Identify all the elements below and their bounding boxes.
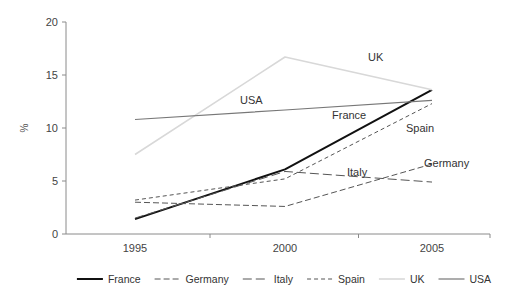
legend-label-spain: Spain bbox=[338, 273, 365, 285]
chart-series-annotations: UKUSAFranceSpainGermanyItaly bbox=[240, 51, 470, 178]
y-tick-label: 5 bbox=[52, 175, 58, 187]
legend-label-italy: Italy bbox=[274, 273, 294, 285]
series-annotation-france: France bbox=[332, 109, 366, 121]
chart-legend: FranceGermanyItalySpainUKUSA bbox=[77, 273, 491, 285]
y-tick-label: 15 bbox=[46, 69, 58, 81]
chart-series-lines bbox=[135, 57, 432, 219]
legend-label-uk: UK bbox=[410, 273, 425, 285]
y-tick-label: 10 bbox=[46, 122, 58, 134]
legend-label-france: France bbox=[108, 273, 141, 285]
line-chart: 05101520 199520002005 UKUSAFranceSpainGe… bbox=[0, 0, 523, 302]
series-annotation-spain: Spain bbox=[406, 122, 434, 134]
series-annotation-usa: USA bbox=[240, 94, 263, 106]
series-line-usa bbox=[135, 100, 432, 119]
y-axis-title: % bbox=[19, 123, 30, 132]
series-annotation-germany: Germany bbox=[424, 157, 470, 169]
series-annotation-uk: UK bbox=[368, 51, 384, 63]
x-tick-label: 2000 bbox=[273, 242, 297, 254]
chart-canvas: 05101520 199520002005 UKUSAFranceSpainGe… bbox=[0, 0, 523, 302]
y-tick-label: 0 bbox=[52, 228, 58, 240]
x-tick-label: 2005 bbox=[420, 242, 444, 254]
legend-label-usa: USA bbox=[470, 273, 492, 285]
series-annotation-italy: Italy bbox=[347, 166, 368, 178]
x-axis-ticks: 199520002005 bbox=[123, 234, 490, 254]
y-tick-label: 20 bbox=[46, 16, 58, 28]
series-line-spain bbox=[135, 104, 432, 200]
x-tick-label: 1995 bbox=[123, 242, 147, 254]
series-line-italy bbox=[135, 171, 432, 218]
legend-label-germany: Germany bbox=[186, 273, 230, 285]
y-axis-ticks: 05101520 bbox=[46, 16, 66, 240]
series-line-france bbox=[135, 90, 432, 219]
series-line-uk bbox=[135, 57, 432, 155]
